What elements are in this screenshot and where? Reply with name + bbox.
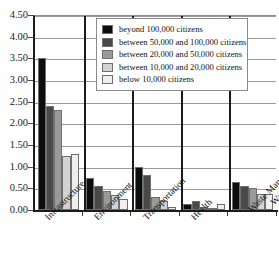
y-axis: 0.000.501.001.502.002.503.003.504.004.50: [0, 0, 33, 218]
legend-swatch: [102, 25, 113, 34]
y-tick-label: 3.50: [10, 53, 28, 63]
y-tick-label: 4.50: [10, 10, 28, 20]
legend-item: between 10,000 and 20,000 citizens: [102, 61, 242, 73]
bar: [46, 106, 54, 210]
legend-swatch: [102, 75, 113, 84]
y-tick-label: 2.00: [10, 118, 28, 128]
legend-item: below 10,000 citizens: [102, 74, 242, 86]
bar: [135, 167, 143, 210]
legend-label: beyond 100,000 citizens: [119, 25, 203, 34]
legend-swatch: [102, 38, 113, 47]
bar: [232, 182, 240, 210]
legend-label: below 10,000 citizens: [119, 75, 194, 84]
y-tick-label: 0.50: [10, 183, 28, 193]
x-tick-mark: [130, 212, 131, 216]
y-tick-label: 2.50: [10, 97, 28, 107]
y-tick-label: 1.50: [10, 140, 28, 150]
y-tick-label: 4.00: [10, 32, 28, 42]
legend-label: between 10,000 and 20,000 citizens: [119, 63, 242, 72]
bar: [38, 58, 46, 210]
legend-swatch: [102, 50, 113, 59]
x-tick-mark: [82, 212, 83, 216]
y-tick-label: 1.00: [10, 162, 28, 172]
y-tick-label: 3.00: [10, 75, 28, 85]
x-tick-mark: [179, 212, 180, 216]
x-tick-mark: [227, 212, 228, 216]
legend-label: between 50,000 and 100,000 citizens: [119, 38, 246, 47]
bar-chart: 0.000.501.001.502.002.503.003.504.004.50…: [0, 0, 279, 274]
x-axis: InfrastructureEnvironmentTransportationH…: [0, 212, 279, 274]
legend-item: beyond 100,000 citizens: [102, 24, 242, 36]
legend-swatch: [102, 63, 113, 72]
bar-group: [38, 16, 80, 210]
chart-legend: beyond 100,000 citizensbetween 50,000 an…: [96, 18, 248, 91]
legend-label: between 20,000 and 50,000 citizens: [119, 50, 242, 59]
legend-item: between 50,000 and 100,000 citizens: [102, 36, 242, 48]
x-tick-mark: [276, 212, 277, 216]
bar: [86, 178, 94, 211]
legend-item: between 20,000 and 50,000 citizens: [102, 49, 242, 61]
